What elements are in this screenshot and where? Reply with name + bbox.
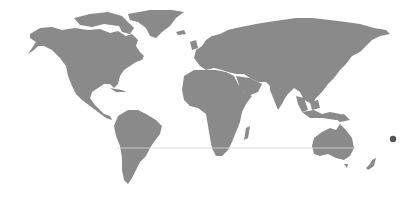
greenland: [128, 10, 184, 38]
iceland: [176, 30, 186, 35]
location-marker-icon[interactable]: [390, 136, 396, 142]
world-map-svg: [0, 0, 418, 197]
tasmania: [344, 164, 348, 168]
north-america: [28, 27, 144, 120]
baffin-island: [118, 22, 134, 34]
caribbean: [110, 88, 126, 92]
madagascar: [244, 126, 250, 140]
british-isles: [190, 40, 198, 50]
world-map: [0, 0, 418, 197]
south-america: [114, 110, 162, 184]
australia: [312, 124, 354, 160]
new-zealand: [366, 158, 376, 170]
